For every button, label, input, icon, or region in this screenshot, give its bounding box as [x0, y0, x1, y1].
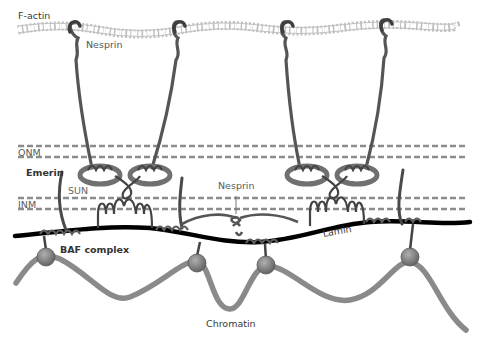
- nesprin-inner-isoform: [182, 196, 298, 235]
- label-f-actin: F-actin: [18, 11, 50, 21]
- label-chromatin: Chromatin: [206, 319, 256, 329]
- label-onm: ONM: [18, 148, 41, 158]
- label-nesprin-top: Nesprin: [86, 40, 123, 50]
- label-sun: SUN: [68, 186, 88, 196]
- baf-ball-2: [188, 254, 206, 272]
- label-emerin: Emerin: [26, 168, 64, 178]
- label-inm: INM: [18, 200, 36, 210]
- baf-ball-1: [37, 248, 55, 266]
- f-actin-filament: [18, 22, 456, 37]
- label-baf-complex: BAF complex: [60, 245, 129, 255]
- baf-ball-4: [401, 248, 419, 266]
- baf-ball-3: [257, 256, 275, 274]
- label-nesprin-middle: Nesprin: [218, 181, 255, 191]
- linc-complex-diagram: F-actin Nesprin ONM Emerin SUN INM Nespr…: [0, 0, 481, 343]
